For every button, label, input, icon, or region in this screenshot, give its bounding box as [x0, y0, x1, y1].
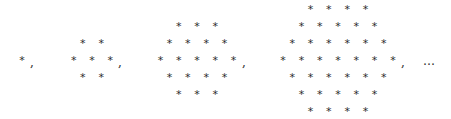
asterisk-icon: * — [164, 38, 176, 50]
asterisk-icon: * — [182, 38, 194, 50]
asterisk-icon: * — [209, 89, 221, 101]
asterisk-icon: * — [314, 89, 326, 101]
asterisk-icon: * — [323, 72, 335, 84]
asterisk-icon: * — [173, 89, 185, 101]
asterisk-icon: * — [104, 55, 116, 67]
ellipsis: … — [423, 55, 435, 67]
comma-separator: , — [118, 56, 122, 68]
asterisk-icon: * — [341, 38, 353, 50]
asterisk-icon: * — [369, 89, 381, 101]
asterisk-icon: * — [314, 55, 326, 67]
comma-separator: , — [401, 56, 405, 68]
asterisk-icon: * — [286, 38, 298, 50]
asterisk-icon: * — [200, 38, 212, 50]
asterisk-icon: * — [369, 55, 381, 67]
asterisk-icon: * — [305, 38, 317, 50]
asterisk-icon: * — [332, 55, 344, 67]
asterisk-icon: * — [305, 106, 317, 118]
asterisk-icon: * — [359, 4, 371, 16]
asterisk-icon: * — [341, 4, 353, 16]
asterisk-icon: * — [191, 21, 203, 33]
hexagonal-number-figure: *,*******,*******************,**********… — [0, 0, 451, 119]
asterisk-icon: * — [323, 38, 335, 50]
asterisk-icon: * — [86, 55, 98, 67]
asterisk-icon: * — [95, 38, 107, 50]
comma-separator: , — [30, 56, 34, 68]
asterisk-icon: * — [200, 72, 212, 84]
asterisk-icon: * — [209, 21, 221, 33]
asterisk-icon: * — [154, 55, 166, 67]
asterisk-icon: * — [295, 89, 307, 101]
asterisk-icon: * — [378, 72, 390, 84]
asterisk-icon: * — [341, 72, 353, 84]
asterisk-icon: * — [295, 21, 307, 33]
asterisk-icon: * — [164, 72, 176, 84]
comma-separator: , — [242, 56, 246, 68]
asterisk-icon: * — [77, 72, 89, 84]
asterisk-icon: * — [314, 21, 326, 33]
asterisk-icon: * — [323, 4, 335, 16]
asterisk-icon: * — [323, 106, 335, 118]
asterisk-icon: * — [359, 106, 371, 118]
asterisk-icon: * — [173, 55, 185, 67]
asterisk-icon: * — [378, 38, 390, 50]
asterisk-icon: * — [369, 21, 381, 33]
asterisk-icon: * — [286, 72, 298, 84]
asterisk-icon: * — [359, 72, 371, 84]
asterisk-icon: * — [209, 55, 221, 67]
asterisk-icon: * — [16, 55, 28, 67]
asterisk-icon: * — [341, 106, 353, 118]
asterisk-icon: * — [295, 55, 307, 67]
asterisk-icon: * — [350, 21, 362, 33]
asterisk-icon: * — [277, 55, 289, 67]
asterisk-icon: * — [387, 55, 399, 67]
asterisk-icon: * — [191, 89, 203, 101]
asterisk-icon: * — [305, 72, 317, 84]
asterisk-icon: * — [228, 55, 240, 67]
asterisk-icon: * — [305, 4, 317, 16]
asterisk-icon: * — [173, 21, 185, 33]
asterisk-icon: * — [332, 21, 344, 33]
asterisk-icon: * — [350, 55, 362, 67]
asterisk-icon: * — [95, 72, 107, 84]
asterisk-icon: * — [191, 55, 203, 67]
asterisk-icon: * — [77, 38, 89, 50]
asterisk-icon: * — [359, 38, 371, 50]
asterisk-icon: * — [332, 89, 344, 101]
asterisk-icon: * — [182, 72, 194, 84]
asterisk-icon: * — [218, 38, 230, 50]
asterisk-icon: * — [218, 72, 230, 84]
asterisk-icon: * — [350, 89, 362, 101]
asterisk-icon: * — [68, 55, 80, 67]
